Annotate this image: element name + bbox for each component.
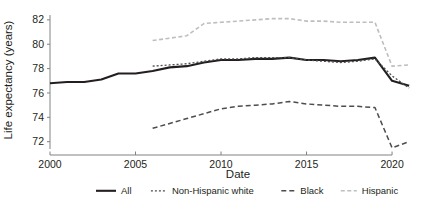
legend-label-hispanic: Hispanic xyxy=(362,185,399,196)
y-tick-label: 78 xyxy=(32,62,44,74)
legend-label-non-hispanic-white: Non-Hispanic white xyxy=(172,185,254,196)
y-tick-label: 76 xyxy=(32,87,44,99)
life-expectancy-line-chart: 727476788082 20002005201020152020 Life e… xyxy=(0,0,423,212)
y-tick-label: 72 xyxy=(32,135,44,147)
x-axis-ticks: 20002005201020152020 xyxy=(38,152,404,171)
x-tick-label: 2020 xyxy=(380,158,404,170)
data-series-group xyxy=(50,19,409,148)
chart-legend: AllNon-Hispanic whiteBlackHispanic xyxy=(96,185,398,196)
chart-canvas: 727476788082 20002005201020152020 Life e… xyxy=(0,0,423,212)
x-tick-label: 2015 xyxy=(295,158,319,170)
y-axis-title: Life expectancy (years) xyxy=(2,20,14,139)
y-axis: 727476788082 xyxy=(32,13,50,149)
x-axis-title: Date xyxy=(226,168,250,180)
legend-label-all: All xyxy=(121,185,132,196)
series-line-black xyxy=(153,101,410,147)
y-tick-label: 82 xyxy=(32,13,44,25)
y-axis-ticks: 727476788082 xyxy=(32,13,50,147)
legend-label-black: Black xyxy=(300,185,323,196)
series-line-non-hispanic-white xyxy=(153,58,410,88)
y-tick-label: 80 xyxy=(32,38,44,50)
x-tick-label: 2005 xyxy=(124,158,148,170)
x-tick-label: 2000 xyxy=(38,158,62,170)
x-axis: 20002005201020152020 xyxy=(38,152,404,171)
series-line-all xyxy=(50,58,409,86)
y-tick-label: 74 xyxy=(32,111,44,123)
